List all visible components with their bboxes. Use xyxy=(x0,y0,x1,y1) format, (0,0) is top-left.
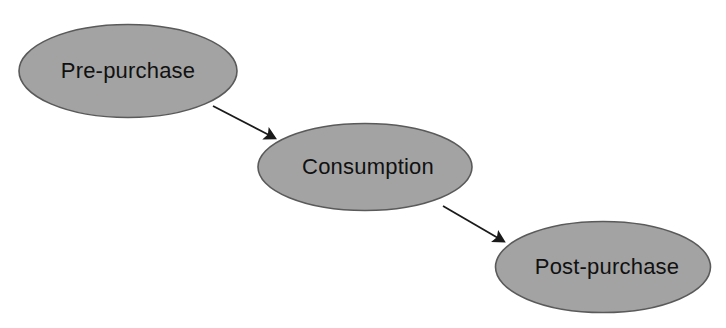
edge-consumption-to-post xyxy=(443,206,498,238)
edge-pre-to-consumption xyxy=(213,106,269,135)
node-consumption[interactable]: Consumption xyxy=(258,124,472,211)
node-pre-purchase[interactable]: Pre-purchase xyxy=(19,25,237,118)
node-label-consumption: Consumption xyxy=(302,154,434,179)
node-label-pre-purchase: Pre-purchase xyxy=(61,58,195,83)
node-post-purchase[interactable]: Post-purchase xyxy=(496,222,711,313)
edge-line-2 xyxy=(443,206,498,238)
edge-line-1 xyxy=(213,106,269,135)
flow-diagram: Pre-purchase Consumption Post-purchase xyxy=(0,0,726,328)
diagram-canvas: Pre-purchase Consumption Post-purchase xyxy=(0,0,726,328)
node-label-post-purchase: Post-purchase xyxy=(535,254,679,279)
